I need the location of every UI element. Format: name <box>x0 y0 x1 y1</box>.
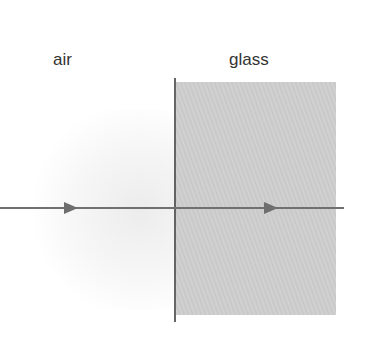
ray-arrow-icon <box>64 202 78 214</box>
ray-arrow-icon <box>264 202 278 214</box>
ray-layer <box>0 0 366 338</box>
refraction-diagram: air glass <box>0 0 366 338</box>
